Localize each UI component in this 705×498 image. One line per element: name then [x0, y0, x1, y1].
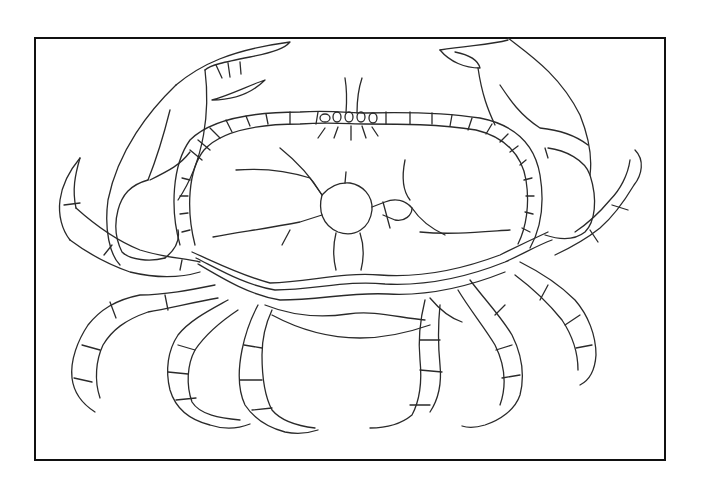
carapace: [213, 148, 510, 270]
right-claw: [440, 38, 595, 238]
abdomen: [192, 232, 552, 338]
left-walking-legs: [59, 158, 318, 433]
right-walking-legs: [370, 150, 641, 428]
crab-drawing: [0, 0, 705, 498]
eye-stalks: [318, 78, 378, 140]
left-claw: [107, 42, 290, 265]
carapace-rim: [174, 111, 542, 248]
